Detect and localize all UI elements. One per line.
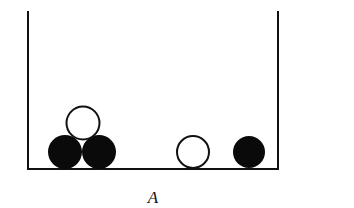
white-ball [67, 107, 100, 140]
black-ball [82, 135, 116, 169]
white-ball [177, 136, 209, 168]
black-ball [48, 135, 82, 169]
container-diagram [0, 0, 354, 208]
black-ball [233, 136, 265, 168]
figure-label: A [142, 188, 164, 208]
